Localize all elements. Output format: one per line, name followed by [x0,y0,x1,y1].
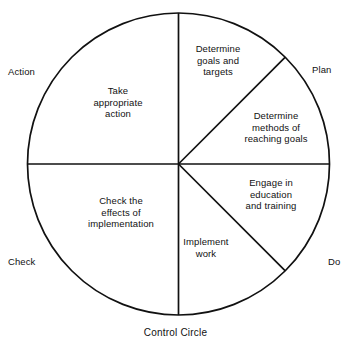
sector-label-determine-goals: Determine goals and targets [170,43,266,78]
sector-label-check-effects: Check the effects of implementation [66,195,176,230]
outer-label-plan: Plan [312,64,331,75]
outer-label-do: Do [328,256,340,267]
outer-label-check: Check [8,256,35,267]
sector-label-take-action: Take appropriate action [66,85,170,120]
diagram-caption: Control Circle [0,327,351,338]
sector-label-determine-methods: Determine methods of reaching goals [226,110,326,145]
sector-label-implement-work: Implement work [164,236,248,259]
control-circle-diagram: Determine goals and targets Determine me… [0,0,351,357]
outer-label-action: Action [8,66,35,77]
sector-label-engage-education: Engage in education and training [222,177,320,212]
